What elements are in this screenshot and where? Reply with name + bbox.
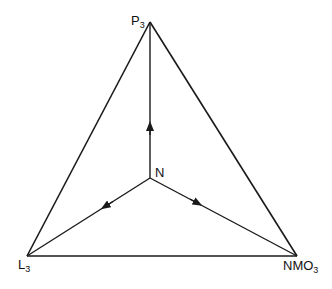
vertex-label-l3: L3 bbox=[18, 258, 30, 274]
arrows bbox=[105, 126, 198, 207]
line-n-to-l3 bbox=[27, 178, 150, 256]
triangle-outline bbox=[27, 22, 297, 256]
edge-p3-l3 bbox=[27, 22, 150, 256]
arrow-down-left-icon bbox=[105, 202, 113, 207]
center-label-n: N bbox=[155, 166, 164, 179]
center-lines bbox=[27, 22, 297, 256]
vertex-label-p3: P3 bbox=[131, 14, 145, 30]
arrow-down-right-icon bbox=[190, 199, 198, 203]
vertex-label-nmo3: NMO3 bbox=[283, 259, 318, 275]
edge-p3-nmo3 bbox=[150, 22, 297, 256]
ternary-diagram bbox=[0, 0, 332, 289]
line-n-to-nmo3 bbox=[150, 178, 297, 256]
